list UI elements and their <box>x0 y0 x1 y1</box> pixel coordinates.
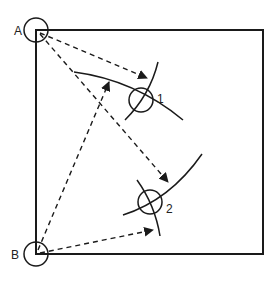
sight-line-a-to-1 <box>40 33 147 78</box>
point-1-label: 1 <box>157 92 164 106</box>
point-2-label: 2 <box>166 202 173 216</box>
sight-line-a-to-2 <box>40 34 168 182</box>
triangulation-diagram: A B 1 2 <box>0 0 276 281</box>
sight-line-b-to-1 <box>38 82 109 250</box>
station-a-label: A <box>14 24 22 38</box>
sight-line-b-to-2 <box>40 230 153 253</box>
arc-2a <box>123 154 202 215</box>
station-b-label: B <box>11 248 19 262</box>
arc-1a <box>74 72 183 120</box>
boundary-square <box>36 30 263 254</box>
